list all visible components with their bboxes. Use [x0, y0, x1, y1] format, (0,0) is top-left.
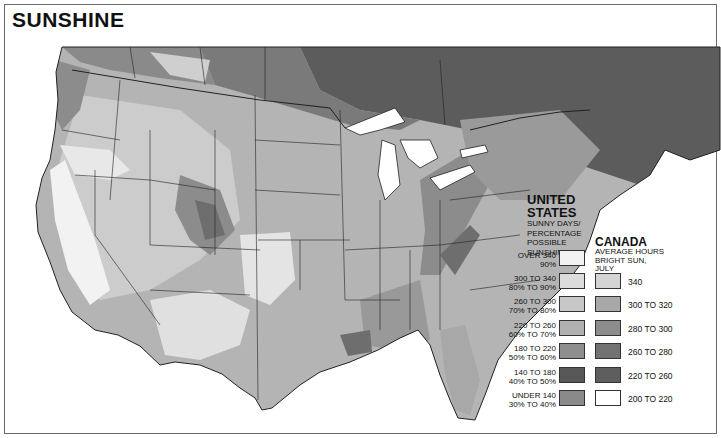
legend-canada-label-5: 200 TO 220: [628, 394, 673, 404]
legend-us-subtitle-3: POSSIBLE: [527, 239, 582, 248]
legend-us-percent-1: 80% TO 90%: [498, 283, 556, 292]
legend-us-days-3: 220 TO 260: [498, 321, 556, 330]
legend-us-swatch-0: [559, 250, 585, 266]
legend-us-swatch-4: [559, 343, 585, 359]
legend-us-percent-3: 60% TO 70%: [498, 330, 556, 339]
legend-canada-swatch-5: [595, 390, 621, 406]
legend-canada-label-4: 220 TO 260: [628, 371, 673, 381]
legend-canada-swatch-0: [595, 273, 621, 289]
legend-us-label-2: 260 TO 30070% TO 80%: [498, 297, 556, 315]
legend-us-heading: UNITED STATES SUNNY DAYS/ PERCENTAGE POS…: [527, 193, 582, 257]
legend-us-subtitle-2: PERCENTAGE: [527, 230, 582, 239]
legend-us-days-1: 300 TO 340: [498, 274, 556, 283]
legend-us-label-0: OVER 34090%: [498, 251, 556, 269]
legend-canada-swatch-1: [595, 296, 621, 312]
legend-canada-swatch-3: [595, 343, 621, 359]
legend-us-label-1: 300 TO 34080% TO 90%: [498, 274, 556, 292]
legend-us-days-6: UNDER 140: [498, 391, 556, 400]
legend-us-swatch-1: [559, 273, 585, 289]
legend-us-swatch-3: [559, 320, 585, 336]
legend-us-percent-6: 30% TO 40%: [498, 400, 556, 409]
legend-us-swatch-2: [559, 296, 585, 312]
legend-us-label-6: UNDER 14030% TO 40%: [498, 391, 556, 409]
legend-us-label-5: 140 TO 18040% TO 50%: [498, 368, 556, 386]
legend-us-label-4: 180 TO 22050% TO 60%: [498, 344, 556, 362]
legend-canada-label-2: 280 TO 300: [628, 324, 673, 334]
map-title: SUNSHINE: [12, 8, 125, 32]
legend-us-days-0: OVER 340: [498, 251, 556, 260]
legend-canada-heading: CANADA AVERAGE HOURS BRIGHT SUN, JULY: [595, 236, 664, 274]
legend-canada-label-3: 260 TO 280: [628, 347, 673, 357]
legend-us-swatch-6: [559, 390, 585, 406]
legend-us-title-line2: STATES: [527, 206, 582, 219]
legend-us-days-4: 180 TO 220: [498, 344, 556, 353]
legend-us-label-3: 220 TO 26060% TO 70%: [498, 321, 556, 339]
legend-us-percent-4: 50% TO 60%: [498, 353, 556, 362]
legend-us-subtitle-1: SUNNY DAYS/: [527, 220, 582, 229]
legend-canada-label-0: 340: [628, 277, 642, 287]
legend-us-days-5: 140 TO 180: [498, 368, 556, 377]
legend-us-percent-0: 90%: [498, 260, 556, 269]
legend-us-days-2: 260 TO 300: [498, 297, 556, 306]
legend-us-swatch-5: [559, 367, 585, 383]
legend-canada-swatch-4: [595, 367, 621, 383]
legend-us-percent-2: 70% TO 80%: [498, 306, 556, 315]
legend-canada-swatch-2: [595, 320, 621, 336]
legend-canada-label-1: 300 TO 320: [628, 300, 673, 310]
legend-us-percent-5: 40% TO 50%: [498, 377, 556, 386]
